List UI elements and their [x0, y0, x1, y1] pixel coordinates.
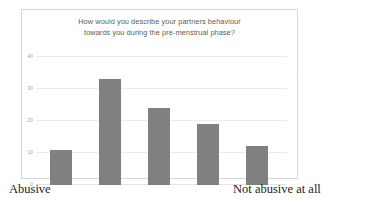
scan-artifact-mark: '	[300, 72, 303, 84]
plot-area: 40 30 20 10 0	[36, 56, 287, 185]
y-axis-tick-30: 30	[27, 85, 33, 91]
bar-3[interactable]	[148, 108, 170, 185]
y-axis-tick-20: 20	[27, 117, 33, 123]
bar-5[interactable]	[246, 146, 268, 185]
y-axis-tick-10: 10	[27, 149, 33, 155]
x-axis-endpoint-label-left: Abusive	[9, 182, 51, 197]
bar-series	[36, 56, 287, 185]
chart-title: How would you describe your partners beh…	[22, 16, 297, 38]
chart-title-line-2: towards you during the pre-menstrual pha…	[22, 27, 297, 38]
chart-container: How would you describe your partners beh…	[21, 9, 298, 179]
y-axis-tick-40: 40	[27, 53, 33, 59]
chart-title-line-1: How would you describe your partners beh…	[22, 16, 297, 27]
bar-1[interactable]	[50, 150, 72, 186]
bar-2[interactable]	[99, 79, 121, 185]
bar-4[interactable]	[197, 124, 219, 185]
x-axis-endpoint-label-right: Not abusive at all	[233, 182, 321, 197]
